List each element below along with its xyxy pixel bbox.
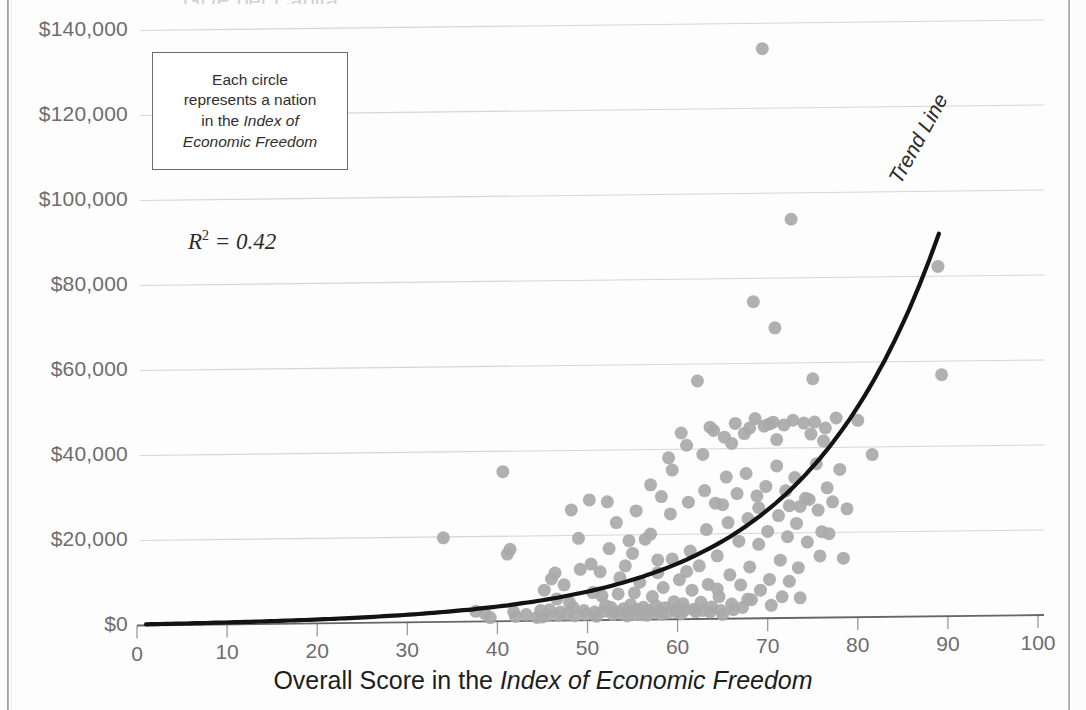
scatter-point	[754, 584, 767, 597]
scatter-point	[622, 534, 635, 547]
callout-box: Each circle represents a nation in the I…	[152, 52, 348, 170]
scatter-points	[437, 42, 948, 624]
scatter-point	[558, 578, 571, 591]
scatter-point	[722, 516, 735, 529]
x-axis-tick-label: 30	[377, 638, 437, 662]
callout-line-1: Each circle	[212, 71, 288, 88]
scatter-point	[732, 535, 745, 548]
scatter-point	[504, 543, 517, 556]
callout-line-3-plain: in the	[201, 112, 243, 129]
scatter-point	[691, 374, 704, 387]
scatter-point	[768, 321, 781, 334]
scatter-point	[662, 451, 675, 464]
scatter-point	[675, 427, 688, 440]
scatter-point	[664, 507, 677, 520]
callout-line-3-italic: Index of	[244, 112, 299, 129]
scatter-point	[776, 590, 789, 603]
scatter-point	[794, 591, 807, 604]
scatter-point	[509, 610, 522, 623]
scatter-point	[770, 459, 783, 472]
scatter-point	[801, 536, 814, 549]
gridline	[140, 530, 1044, 541]
scatter-point	[704, 421, 717, 434]
scatter-point	[682, 496, 695, 509]
scatter-point	[752, 538, 765, 551]
scatter-point	[583, 493, 596, 506]
scatter-point	[720, 471, 733, 484]
y-axis-tick-label: $60,000	[8, 357, 128, 381]
callout-line-4-italic: Economic Freedom	[183, 133, 317, 150]
scatter-point	[594, 565, 607, 578]
scatter-point	[813, 549, 826, 562]
scatter-point	[806, 372, 819, 385]
x-axis-tick-label: 60	[648, 635, 708, 659]
scatter-point	[792, 561, 805, 574]
scatter-point	[783, 575, 796, 588]
scatter-point	[756, 42, 769, 55]
x-axis-tick-label: 40	[467, 637, 527, 661]
scatter-point	[770, 433, 783, 446]
scatter-point	[837, 552, 850, 565]
scatter-point	[680, 565, 693, 578]
x-axis-title: Overall Score in the Index of Economic F…	[0, 666, 1086, 695]
y-axis-tick-label: $40,000	[8, 442, 128, 466]
y-axis-tick-label: $140,000	[8, 17, 128, 41]
scatter-point	[619, 559, 632, 572]
scatter-point	[711, 549, 724, 562]
scatter-point	[750, 489, 763, 502]
scatter-point	[731, 487, 744, 500]
scatter-point	[496, 465, 509, 478]
r-exponent: 2	[202, 228, 209, 243]
r-value: = 0.42	[209, 229, 276, 254]
scatter-point	[725, 437, 738, 450]
scatter-point	[644, 528, 657, 541]
scatter-point	[819, 421, 832, 434]
scatter-point	[866, 448, 879, 461]
callout-text: Each circle represents a nation in the I…	[183, 70, 317, 152]
scatter-point	[740, 467, 753, 480]
x-axis-tick-label: 10	[197, 640, 257, 664]
scatter-point	[651, 553, 664, 566]
x-axis-tick-label: 0	[107, 642, 167, 666]
scatter-point	[686, 584, 699, 597]
scatter-point	[833, 463, 846, 476]
scatter-point	[761, 525, 774, 538]
scatter-point	[716, 498, 729, 511]
scatter-point	[794, 500, 807, 513]
scatter-point	[935, 368, 948, 381]
scatter-point	[822, 527, 835, 540]
y-axis-tick-label: $80,000	[8, 272, 128, 296]
scatter-point	[785, 213, 798, 226]
callout-line-2: represents a nation	[184, 91, 317, 108]
gridline	[140, 445, 1044, 456]
r-symbol: R	[188, 229, 202, 254]
x-axis-tick-label: 20	[287, 639, 347, 663]
scatter-point	[747, 295, 760, 308]
y-axis-tick-label: $20,000	[8, 527, 128, 551]
chart-page: GDP per Capita $140,000$120,000$100,000$…	[0, 0, 1086, 710]
scatter-point	[781, 530, 794, 543]
y-axis-tick-label: $100,000	[8, 187, 128, 211]
scatter-point	[790, 517, 803, 530]
scatter-point	[601, 495, 614, 508]
scatter-point	[698, 484, 711, 497]
scatter-point	[484, 611, 497, 624]
scatter-point	[830, 412, 843, 425]
gridline	[140, 360, 1044, 371]
scatter-point	[565, 503, 578, 516]
scatter-point	[644, 478, 657, 491]
scatter-point	[812, 504, 825, 517]
scatter-point	[612, 587, 625, 600]
x-axis-tick-label: 80	[828, 633, 888, 657]
x-axis-title-plain: Overall Score in the	[273, 666, 500, 694]
scatter-point	[734, 578, 747, 591]
scatter-point	[765, 599, 778, 612]
scatter-point	[723, 568, 736, 581]
scatter-point	[655, 490, 668, 503]
scatter-point	[804, 428, 817, 441]
scatter-point	[603, 542, 616, 555]
scatter-point	[840, 502, 853, 515]
x-axis-tick-label: 100	[1008, 631, 1068, 655]
x-axis-tick-label: 90	[918, 632, 978, 656]
scatter-point	[657, 581, 670, 594]
